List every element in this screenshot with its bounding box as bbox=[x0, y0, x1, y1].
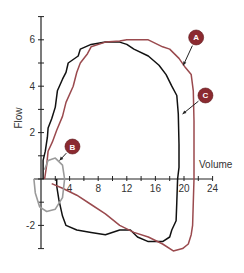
black-loop-line bbox=[43, 42, 179, 242]
x-tick-label: 16 bbox=[150, 183, 162, 194]
y-tick-label: -2 bbox=[26, 220, 35, 231]
x-tick-label: 8 bbox=[95, 183, 101, 194]
y-tick-label: 4 bbox=[29, 81, 35, 92]
y-tick-label: 2 bbox=[29, 127, 35, 138]
flow-volume-chart: -22464812162024 ABC Flow Volume bbox=[0, 0, 244, 273]
x-axis-title: Volume bbox=[199, 159, 233, 170]
x-tick-label: 12 bbox=[121, 183, 133, 194]
annotation-label: A bbox=[193, 33, 199, 42]
annotation-label: C bbox=[203, 91, 209, 100]
series-lines bbox=[34, 40, 194, 251]
x-tick-label: 20 bbox=[178, 183, 190, 194]
x-tick-label: 24 bbox=[207, 183, 219, 194]
y-tick-label: 6 bbox=[29, 34, 35, 45]
y-axis-title: Flow bbox=[13, 107, 24, 129]
annotation-label: B bbox=[70, 143, 76, 152]
